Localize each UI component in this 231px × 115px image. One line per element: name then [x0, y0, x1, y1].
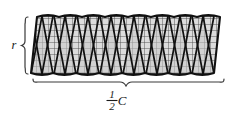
width-brace	[33, 79, 224, 86]
fraction-denominator: 2	[109, 100, 115, 112]
figure-container: r 1 2 C	[0, 0, 231, 115]
circumference-symbol: C	[118, 93, 127, 108]
sector-band	[24, 8, 230, 84]
fraction-numerator: 1	[109, 88, 115, 100]
sector-strip-diagram: r 1 2 C	[0, 0, 231, 115]
height-label: r	[12, 38, 17, 52]
height-brace	[22, 17, 29, 74]
width-label: 1 2 C	[107, 88, 127, 112]
